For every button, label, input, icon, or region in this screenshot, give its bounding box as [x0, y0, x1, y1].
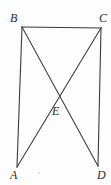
segment-ab	[17, 27, 22, 167]
geometry-figure: B C E A D	[0, 0, 111, 185]
vertex-label-c: C	[99, 12, 107, 24]
scan-artifact-speck	[38, 172, 40, 174]
vertex-label-e: E	[52, 105, 59, 117]
vertex-label-b: B	[10, 12, 17, 24]
vertex-label-d: D	[97, 169, 106, 181]
segment-ca-diagonal	[17, 28, 101, 167]
figure-canvas	[0, 0, 111, 185]
segment-cd	[98, 28, 101, 166]
segment-bc	[22, 27, 101, 28]
vertex-label-a: A	[10, 169, 17, 181]
